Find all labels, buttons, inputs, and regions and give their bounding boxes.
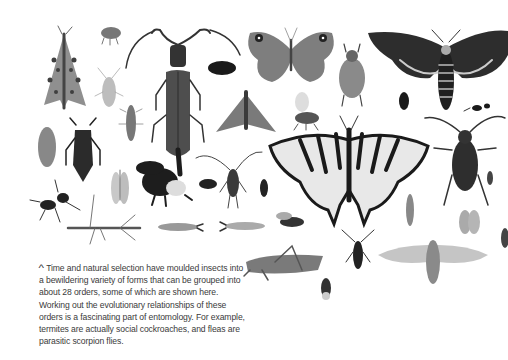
scarab-beetle-icon [339, 44, 365, 106]
woodlouse-icon [38, 127, 56, 167]
grasshopper-icon [244, 246, 323, 280]
figure-caption: ^Time and natural selection have moulded… [39, 262, 249, 347]
noctuid-moth-icon [216, 92, 276, 132]
hoverfly-icon [276, 212, 304, 227]
longhorn-beetle-icon [126, 29, 240, 156]
ground-beetle-icon [425, 117, 505, 205]
weevil-icon [101, 27, 121, 45]
jewel-beetle-icon [66, 118, 100, 182]
longhorn-beetle-2-icon [342, 230, 374, 269]
earwig-icon [158, 223, 203, 231]
caption-text: Time and natural selection have moulded … [39, 263, 245, 346]
caddisfly-icon [406, 194, 414, 226]
aphid-icon [95, 68, 123, 107]
bumblebee-icon [136, 150, 192, 206]
stonefly-icon [459, 210, 480, 234]
tiny-beetle-icon [199, 179, 217, 189]
meadow-brown-butterfly-icon [248, 28, 334, 82]
click-beetle-icon [260, 179, 268, 197]
lacewing-icon [111, 170, 129, 204]
small-black-beetle-icon [208, 61, 236, 75]
small-wasp-icon [487, 171, 493, 185]
ant-icon [464, 104, 490, 112]
fly-icon [321, 278, 331, 300]
stick-insect-icon [68, 195, 140, 244]
small-beetle-icon [399, 92, 409, 110]
earwig-2-icon [220, 222, 265, 231]
cicada-moth-icon [378, 240, 488, 284]
larva-icon [119, 105, 143, 141]
spotted-moth-icon [44, 26, 86, 108]
hawkmoth-icon [368, 30, 508, 110]
swallowtail-butterfly-icon [270, 116, 428, 224]
honey-bee-icon [294, 92, 319, 130]
partial-insect-icon [501, 228, 508, 248]
caption-marker-icon: ^ [38, 262, 43, 274]
ant-2-icon [30, 180, 80, 222]
